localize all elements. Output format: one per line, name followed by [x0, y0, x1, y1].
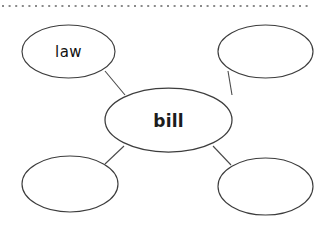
bubble-bottom-left[interactable]: [22, 156, 118, 212]
bubble-top-left-label: law: [55, 43, 82, 61]
bubble-top-right[interactable]: [218, 25, 313, 78]
center-bubble[interactable]: bill: [105, 88, 232, 152]
connector-top-right: [228, 71, 232, 95]
connector-top-left: [105, 71, 125, 95]
bubble-top-right-outline[interactable]: [218, 25, 313, 78]
connector-bottom-left: [105, 146, 124, 164]
center-bubble-label: bill: [153, 111, 183, 131]
bubble-bottom-right[interactable]: [218, 158, 313, 215]
bubble-bottom-left-outline[interactable]: [22, 156, 118, 212]
word-web-diagram: law bill: [0, 0, 329, 230]
connector-bottom-right: [213, 146, 231, 165]
bubble-bottom-right-outline[interactable]: [218, 158, 313, 215]
bubble-top-left[interactable]: law: [22, 25, 115, 78]
worksheet-canvas: law bill: [0, 0, 329, 230]
